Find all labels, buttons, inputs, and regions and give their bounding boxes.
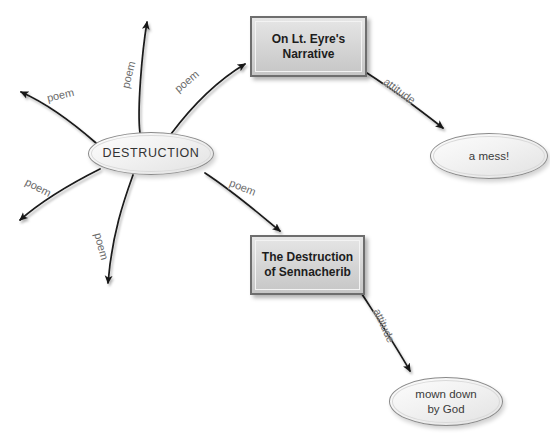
edge-poem-down	[108, 175, 133, 283]
node-label-a-mess: a mess!	[469, 149, 509, 163]
node-ellipse-mown-down-by-god[interactable]: mown down by God	[389, 377, 503, 426]
node-box-on-lt-eyres-narrative[interactable]: On Lt. Eyre's Narrative	[250, 16, 367, 77]
node-label-central: DESTRUCTION	[103, 146, 200, 162]
edge-poem-up	[139, 22, 147, 133]
edge-poem-to-eyre	[171, 64, 245, 134]
node-central-destruction[interactable]: DESTRUCTION	[88, 132, 214, 175]
node-label-box-sennacherib: The Destruction of Sennacherib	[262, 250, 353, 280]
node-label-mown-down-by-god: mown down by God	[415, 387, 476, 416]
node-ellipse-a-mess[interactable]: a mess!	[430, 133, 548, 179]
node-box-the-destruction-of-sennacherib[interactable]: The Destruction of Sennacherib	[250, 235, 365, 295]
node-label-box-eyre: On Lt. Eyre's Narrative	[272, 32, 346, 62]
